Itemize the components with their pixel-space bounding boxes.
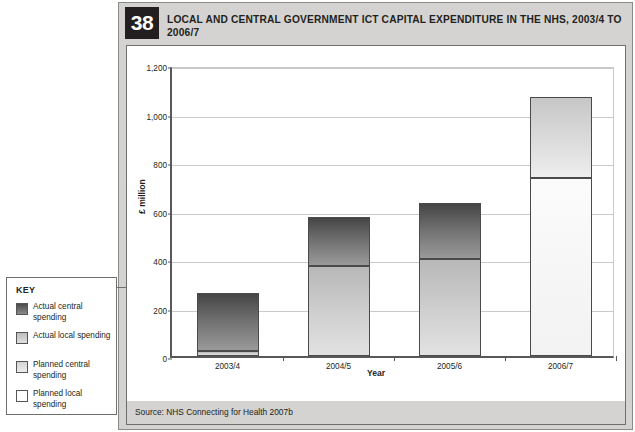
source-strip: Source: NHS Connecting for Health 2007b: [126, 401, 626, 425]
bar-segment[interactable]: [197, 351, 259, 356]
legend-item[interactable]: Actual local spending: [16, 331, 114, 344]
y-axis-title: £ million: [137, 179, 147, 214]
legend-item-label: Actual local spending: [33, 331, 110, 342]
legend-swatch-icon: [16, 390, 28, 402]
y-tick-mark: [168, 213, 172, 214]
figure-screenshot: 38 LOCAL AND CENTRAL GOVERNMENT ICT CAPI…: [0, 0, 635, 432]
y-tick-label: 1,000: [147, 112, 168, 121]
bar-segment[interactable]: [308, 217, 370, 267]
legend-connector-vertical: [126, 287, 127, 387]
y-tick-label: 800: [153, 161, 167, 170]
legend-item-label: Planned local spending: [33, 389, 114, 410]
legend-swatch-icon: [16, 361, 28, 373]
bar-segment[interactable]: [419, 203, 481, 259]
chart-card: £ million 02004006008001,0001,2002003/42…: [126, 45, 626, 423]
figure-number-badge: 38: [125, 7, 159, 39]
y-tick-label: 600: [153, 209, 167, 218]
source-text: Source: NHS Connecting for Health 2007b: [135, 407, 293, 417]
y-tick-mark: [168, 359, 172, 360]
y-tick-mark: [168, 310, 172, 311]
figure-panel: 38 LOCAL AND CENTRAL GOVERNMENT ICT CAPI…: [118, 2, 633, 430]
bar-segment[interactable]: [530, 97, 592, 178]
legend-title: KEY: [16, 285, 35, 295]
gridline: [172, 68, 613, 69]
figure-title: LOCAL AND CENTRAL GOVERNMENT ICT CAPITAL…: [167, 13, 627, 39]
y-tick-mark: [168, 68, 172, 69]
bar-segment[interactable]: [197, 293, 259, 351]
bar-segment[interactable]: [530, 178, 592, 356]
y-tick-label: 400: [153, 258, 167, 267]
legend-item[interactable]: Actual central spending: [16, 302, 114, 323]
figure-title-bar: 38 LOCAL AND CENTRAL GOVERNMENT ICT CAPI…: [119, 3, 634, 43]
x-tick-mark: [394, 356, 395, 361]
legend-item[interactable]: Planned central spending: [16, 360, 114, 381]
legend-swatch-icon: [16, 332, 28, 344]
x-axis-title: Year: [127, 368, 625, 378]
y-tick-label: 1,200: [147, 64, 168, 73]
x-tick-mark: [283, 356, 284, 361]
legend-swatch-icon: [16, 303, 28, 315]
y-tick-mark: [168, 165, 172, 166]
plot-area: 02004006008001,0001,2002003/42004/52005/…: [170, 67, 614, 358]
legend-item-label: Actual central spending: [33, 302, 114, 323]
bar-segment[interactable]: [419, 259, 481, 356]
legend-item[interactable]: Planned local spending: [16, 389, 114, 410]
bar-segment[interactable]: [308, 266, 370, 356]
y-tick-label: 0: [162, 355, 167, 364]
legend-box: KEY Actual central spendingActual local …: [6, 277, 117, 415]
legend-item-label: Planned central spending: [33, 360, 114, 381]
y-tick-label: 200: [153, 306, 167, 315]
x-tick-mark: [505, 356, 506, 361]
y-tick-mark: [168, 116, 172, 117]
y-tick-mark: [168, 262, 172, 263]
x-tick-mark: [616, 356, 617, 361]
